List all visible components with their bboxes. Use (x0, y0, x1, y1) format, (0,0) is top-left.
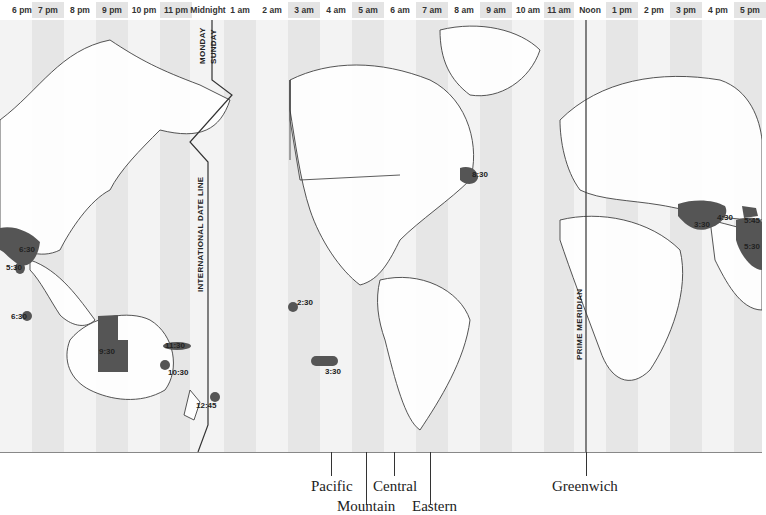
eastern-label: Eastern (412, 498, 457, 515)
reference-axis: Pacific Mountain Central Eastern Greenwi… (0, 452, 766, 505)
world-outline (0, 20, 762, 452)
zone-label-myanmar: 6:30 (19, 245, 35, 254)
europe-landmass (560, 76, 762, 220)
hour-label: 11 pm (160, 2, 192, 18)
hour-label: 4 pm (702, 2, 734, 18)
hour-label: 11 am (544, 2, 574, 18)
greenland (440, 26, 540, 96)
zone-label-norfolk: 10:30 (168, 368, 188, 377)
hour-label: 4 am (320, 2, 352, 18)
zone-label-india: 5:30 (744, 242, 760, 251)
zone-pitcairn (311, 356, 338, 366)
hour-label: 10 am (512, 2, 544, 18)
hour-label: 5 am (352, 2, 384, 18)
zone-label-nepal: 5:45 (744, 216, 760, 225)
zone-label-marquesas: 2:30 (297, 298, 313, 307)
sunday-label: SUNDAY (209, 29, 218, 64)
greenwich-tick (586, 452, 587, 476)
hour-label: 6 am (384, 2, 416, 18)
hour-label: 9 pm (96, 2, 128, 18)
hour-label: 1 am (224, 2, 256, 18)
hour-label: Midnight (190, 2, 226, 18)
hour-label: 10 pm (128, 2, 160, 18)
date-line-label: INTERNATIONAL DATE LINE (196, 177, 205, 292)
greenwich-label: Greenwich (552, 478, 618, 495)
hour-label: 7 pm (32, 2, 64, 18)
hour-label: 2 pm (638, 2, 670, 18)
zone-label-lord-howe: 11:30 (165, 341, 185, 350)
zone-label-chatham: 12:45 (196, 401, 216, 410)
hour-header: 6 pm 7 pm 8 pm 9 pm 10 pm 11 pm Midnight… (0, 0, 766, 20)
hour-label: 8 am (448, 2, 480, 18)
time-zone-map: MONDAY SUNDAY INTERNATIONAL DATE LINE PR… (0, 20, 762, 453)
zone-label-pitcairn: 3:30 (325, 367, 341, 376)
hour-label: 7 am (416, 2, 448, 18)
zone-label-iran: 3:30 (694, 220, 710, 229)
southeast-asia (30, 260, 95, 325)
prime-meridian-label: PRIME MERIDIAN (575, 289, 584, 360)
hour-label: 3 pm (670, 2, 702, 18)
zone-label-cocos: 6:30 (11, 312, 27, 321)
hour-label: 2 am (256, 2, 288, 18)
north-america-landmass (290, 65, 474, 285)
central-tick (394, 452, 395, 476)
hour-label: 3 am (288, 2, 320, 18)
hour-label: 1 pm (606, 2, 638, 18)
central-label: Central (373, 478, 417, 495)
zone-label-afghanistan: 4:30 (717, 213, 733, 222)
hour-label: 9 am (480, 2, 512, 18)
pacific-label: Pacific (311, 478, 353, 495)
zone-label-australia-central: 9:30 (99, 347, 115, 356)
hour-label: 8 pm (64, 2, 96, 18)
monday-label: MONDAY (198, 27, 207, 64)
pacific-tick (331, 452, 332, 476)
south-america-landmass (378, 277, 470, 430)
mountain-label: Mountain (337, 498, 395, 515)
zone-label-newfoundland: 8:30 (472, 170, 488, 179)
hour-label: 5 pm (734, 2, 766, 18)
zone-label-india-west: 5:30 (6, 263, 22, 272)
hour-label: Noon (574, 2, 606, 18)
